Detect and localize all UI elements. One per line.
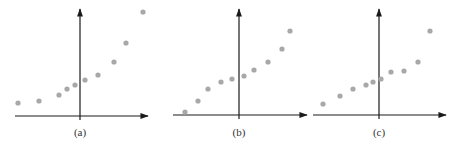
data-point	[36, 98, 41, 103]
data-point	[265, 59, 270, 64]
data-point	[111, 59, 116, 64]
scatter-panel	[173, 9, 307, 119]
scatter-panel	[313, 9, 446, 119]
data-point	[378, 76, 383, 81]
data-point	[218, 79, 223, 84]
data-point	[350, 86, 355, 91]
data-point	[287, 28, 292, 33]
data-point	[320, 101, 325, 106]
data-point	[337, 93, 342, 98]
data-point	[140, 9, 145, 14]
data-point	[15, 100, 20, 105]
data-point	[241, 73, 246, 78]
data-point	[370, 79, 375, 84]
data-point	[82, 77, 87, 82]
panel-label: (c)	[373, 126, 385, 138]
panel-label: (b)	[233, 126, 246, 138]
panel-label: (a)	[74, 126, 86, 138]
scatter-figure	[0, 0, 459, 145]
data-point	[182, 109, 187, 114]
data-point	[415, 59, 420, 64]
data-point	[123, 40, 128, 45]
scatter-panel	[15, 9, 148, 120]
data-point	[388, 69, 393, 74]
data-point	[195, 98, 200, 103]
data-point	[95, 72, 100, 77]
data-point	[229, 76, 234, 81]
data-point	[72, 82, 77, 87]
data-point	[427, 28, 432, 33]
data-point	[401, 68, 406, 73]
data-point	[205, 86, 210, 91]
data-point	[363, 82, 368, 87]
data-point	[56, 92, 61, 97]
data-point	[279, 46, 284, 51]
data-point	[251, 67, 256, 72]
data-point	[64, 86, 69, 91]
